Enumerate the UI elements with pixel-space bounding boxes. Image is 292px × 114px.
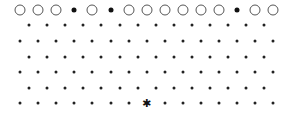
grid-dot-icon <box>64 87 67 90</box>
grid-dot-icon <box>163 102 166 105</box>
grid-dot-icon <box>181 102 184 105</box>
grid-dot-icon <box>73 40 76 43</box>
grid-dot-icon <box>227 56 230 59</box>
grid-dot-icon <box>55 102 58 105</box>
grid-dot-icon <box>209 56 212 59</box>
grid-dot-icon <box>109 102 112 105</box>
grid-dot-icon <box>46 56 49 59</box>
grid-dot-icon <box>245 24 248 27</box>
grid-dot-icon <box>127 71 130 74</box>
grid-dot-icon <box>136 87 139 90</box>
grid-dot-icon <box>109 71 112 74</box>
grid-dot-icon <box>190 87 193 90</box>
grid-dot-icon <box>227 87 230 90</box>
grid-dot-icon <box>263 87 266 90</box>
filled-peg-icon[interactable] <box>108 8 113 13</box>
grid-dot-icon <box>163 40 166 43</box>
grid-dot-icon <box>272 102 275 105</box>
grid-dot-icon <box>181 71 184 74</box>
grid-dot-icon <box>254 40 257 43</box>
grid-dot-icon <box>218 102 221 105</box>
grid-dot-icon <box>200 102 203 105</box>
grid-dot-icon <box>236 102 239 105</box>
grid-dot-icon <box>200 40 203 43</box>
grid-dot-icon <box>190 24 193 27</box>
grid-dot-icon <box>254 102 257 105</box>
grid-dot-icon <box>37 40 40 43</box>
grid-dot-icon <box>236 71 239 74</box>
grid-dot-icon <box>82 24 85 27</box>
empty-hole-icon[interactable] <box>250 5 261 16</box>
grid-dot-icon <box>19 102 22 105</box>
grid-dot-icon <box>64 56 67 59</box>
grid-dot-icon <box>55 40 58 43</box>
grid-dot-icon <box>136 56 139 59</box>
empty-hole-icon[interactable] <box>123 5 134 16</box>
grid-dot-icon <box>19 71 22 74</box>
grid-dot-icon <box>28 56 31 59</box>
filled-peg-icon[interactable] <box>235 8 240 13</box>
grid-dot-icon <box>127 102 130 105</box>
grid-dot-icon <box>190 56 193 59</box>
grid-dot-icon <box>55 71 58 74</box>
grid-dot-icon <box>100 56 103 59</box>
grid-dot-icon <box>127 40 130 43</box>
grid-dot-icon <box>82 56 85 59</box>
star-marker-icon: ✱ <box>142 99 151 108</box>
grid-dot-icon <box>136 24 139 27</box>
grid-dot-icon <box>227 24 230 27</box>
grid-dot-icon <box>19 40 22 43</box>
grid-dot-icon <box>209 24 212 27</box>
grid-dot-icon <box>154 56 157 59</box>
grid-dot-icon <box>263 24 266 27</box>
grid-dot-icon <box>145 40 148 43</box>
grid-dot-icon <box>73 71 76 74</box>
grid-dot-icon <box>118 56 121 59</box>
empty-hole-icon[interactable] <box>196 5 207 16</box>
grid-dot-icon <box>100 87 103 90</box>
grid-dot-icon <box>154 87 157 90</box>
empty-hole-icon[interactable] <box>141 5 152 16</box>
grid-dot-icon <box>46 87 49 90</box>
grid-dot-icon <box>118 24 121 27</box>
grid-dot-icon <box>73 102 76 105</box>
grid-dot-icon <box>181 40 184 43</box>
grid-dot-icon <box>64 24 67 27</box>
grid-dot-icon <box>163 71 166 74</box>
empty-hole-icon[interactable] <box>177 5 188 16</box>
grid-dot-icon <box>254 71 257 74</box>
grid-dot-icon <box>37 71 40 74</box>
grid-dot-icon <box>154 24 157 27</box>
empty-hole-icon[interactable] <box>33 5 44 16</box>
empty-hole-icon[interactable] <box>214 5 225 16</box>
grid-dot-icon <box>91 102 94 105</box>
grid-dot-icon <box>100 24 103 27</box>
grid-dot-icon <box>245 56 248 59</box>
empty-hole-icon[interactable] <box>51 5 62 16</box>
filled-peg-icon[interactable] <box>72 8 77 13</box>
grid-dot-icon <box>218 71 221 74</box>
empty-hole-icon[interactable] <box>268 5 279 16</box>
grid-dot-icon <box>245 87 248 90</box>
grid-dot-icon <box>91 40 94 43</box>
grid-dot-icon <box>200 71 203 74</box>
grid-dot-icon <box>272 71 275 74</box>
grid-dot-icon <box>91 71 94 74</box>
empty-hole-icon[interactable] <box>87 5 98 16</box>
grid-dot-icon <box>209 87 212 90</box>
grid-dot-icon <box>109 40 112 43</box>
grid-dot-icon <box>37 102 40 105</box>
grid-dot-icon <box>46 24 49 27</box>
grid-dot-icon <box>118 87 121 90</box>
grid-dot-icon <box>28 87 31 90</box>
grid-dot-icon <box>236 40 239 43</box>
empty-hole-icon[interactable] <box>159 5 170 16</box>
grid-dot-icon <box>263 56 266 59</box>
game-board: ✱ <box>0 0 292 114</box>
grid-dot-icon <box>145 71 148 74</box>
grid-dot-icon <box>272 40 275 43</box>
grid-dot-icon <box>172 56 175 59</box>
grid-dot-icon <box>82 87 85 90</box>
grid-dot-icon <box>28 24 31 27</box>
empty-hole-icon[interactable] <box>15 5 26 16</box>
